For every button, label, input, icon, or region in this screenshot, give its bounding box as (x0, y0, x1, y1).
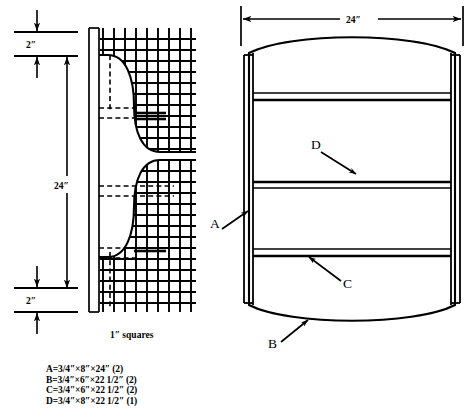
cut-list-width: 6″ (80, 385, 90, 396)
profile-left-mask (84, 28, 100, 312)
cut-list-qty: (2) (112, 364, 123, 374)
right-view: 24″ A (210, 6, 463, 351)
cut-list-row: D=3/4″×8″×22 1/2″ (1) (46, 396, 137, 407)
technical-drawing: 2″ 24″ 2″ 1″ squares 24″ (0, 0, 475, 420)
dimension-height-label: 24″ (54, 181, 69, 191)
cut-list-length: 24″ (96, 364, 110, 375)
cut-list-row: B=3/4″×6″×22 1/2″ (2) (46, 375, 137, 386)
cut-list-qty: (2) (126, 375, 137, 385)
dimension-top-label: 2″ (26, 40, 36, 50)
cut-list-row: C=3/4″×6″×22 1/2″ (2) (46, 385, 137, 396)
drawing-sheet: 2″ 24″ 2″ 1″ squares 24″ (0, 0, 475, 420)
cut-list-width: 8″ (80, 396, 90, 407)
grid-caption: 1″ squares (110, 330, 154, 340)
callout-D-label: D (311, 137, 321, 152)
cut-list-width: 8″ (80, 364, 90, 375)
cut-list-length: 22 1/2″ (96, 385, 125, 396)
cut-list-qty: (1) (126, 396, 137, 406)
cut-list-thickness: 3/4″ (58, 375, 75, 386)
cut-list-width: 6″ (80, 375, 90, 386)
left-view: 2″ 24″ 2″ 1″ squares (14, 10, 196, 340)
cut-list-row: A=3/4″×8″×24″ (2) (46, 364, 137, 375)
dimension-bottom-label: 2″ (26, 296, 36, 306)
callout-A-label: A (210, 216, 220, 231)
cut-list-thickness: 3/4″ (58, 385, 75, 396)
callout-C-label: C (343, 276, 352, 291)
cut-list-qty: (2) (126, 385, 137, 395)
dimension-bottom-2in (14, 266, 78, 334)
cut-list-length: 22 1/2″ (95, 375, 124, 386)
cut-list-part: A (46, 364, 53, 374)
dimension-width-label: 24″ (346, 15, 361, 25)
cut-list-length: 22 1/2″ (96, 396, 125, 407)
cut-list-part: D (46, 396, 53, 406)
callout-B-label: B (268, 336, 277, 351)
cut-list: A=3/4″×8″×24″ (2) B=3/4″×6″×22 1/2″ (2) … (46, 364, 137, 406)
dimension-top-2in (14, 10, 78, 78)
callout-B-leader (281, 320, 308, 342)
cut-list-thickness: 3/4″ (58, 364, 75, 375)
cut-list-thickness: 3/4″ (58, 396, 75, 407)
cut-list-part: C (46, 385, 53, 395)
